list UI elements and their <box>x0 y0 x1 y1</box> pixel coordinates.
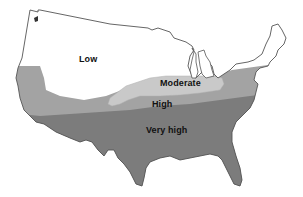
zone-label-very-high: Very high <box>146 125 187 135</box>
zone-label-high: High <box>152 99 172 109</box>
zone-label-moderate: Moderate <box>160 78 201 88</box>
us-risk-map: Low Moderate High Very high <box>0 0 303 197</box>
zone-label-low: Low <box>79 54 97 64</box>
